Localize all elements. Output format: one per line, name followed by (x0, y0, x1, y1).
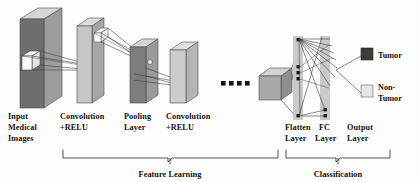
stage-label-conv1-line-1: Convolution (60, 112, 105, 121)
legend-swatch-tumor (361, 48, 373, 60)
stage-label-output-line-2: Layer (347, 134, 369, 143)
stage-label-input-line-3: Images (8, 134, 34, 143)
stage-label-flatten-layer: Flatten Layer (285, 123, 311, 143)
stage-label-flatten-line-2: Layer (285, 134, 307, 143)
stage-label-pool-line-1: Pooling (124, 112, 152, 121)
stage-label-fc-line-2: Layer (315, 134, 337, 143)
stage-label-output-line-1: Output (347, 123, 373, 132)
stage-label-input-line-1: Input (8, 112, 28, 121)
stage-label-conv2-line-1: Convolution (166, 112, 211, 121)
stage-label-pool-line-2: Layer (124, 123, 146, 132)
section-label-feature-learning: Feature Learning (139, 170, 203, 179)
legend-label-tumor-text: Tumor (378, 51, 402, 60)
legend-swatch-non-tumor (361, 85, 373, 97)
legend-label-tumor: Tumor (378, 51, 402, 60)
section-label-classification: Classification (314, 170, 363, 179)
stage-label-input: Input Medical Images (8, 112, 38, 143)
fc-connection-fan (299, 37, 337, 116)
stage-label-input-line-2: Medical (8, 123, 38, 132)
legend-label-non-tumor-line-1: Non- (378, 83, 396, 92)
bracket-classification: Classification (286, 150, 390, 179)
ellipsis-dots (221, 81, 250, 86)
legend-label-non-tumor: Non- Tumor (378, 83, 402, 103)
diagram-canvas: Input Medical Images Convolution +RELU P… (0, 0, 419, 182)
legend-label-non-tumor-line-2: Tumor (378, 94, 402, 103)
stage-label-pooling-layer: Pooling Layer (124, 112, 152, 132)
stage-label-fc-layer: FC Layer (315, 123, 337, 143)
convolution-relu-2-block (170, 42, 198, 103)
stage-label-fc-line-1: FC (319, 123, 330, 132)
bracket-feature-learning: Feature Learning (63, 150, 278, 179)
output-layer-connections (336, 56, 361, 93)
stage-label-conv2-line-2: +RELU (166, 123, 194, 132)
stage-label-output-layer: Output Layer (347, 123, 373, 143)
stage-label-conv1-line-2: +RELU (60, 123, 88, 132)
stage-label-convolution-relu-1: Convolution +RELU (60, 112, 105, 132)
stage-label-convolution-relu-2: Convolution +RELU (166, 112, 211, 132)
stage-label-flatten-line-1: Flatten (285, 123, 311, 132)
cnn-architecture-figure: Input Medical Images Convolution +RELU P… (0, 0, 419, 182)
